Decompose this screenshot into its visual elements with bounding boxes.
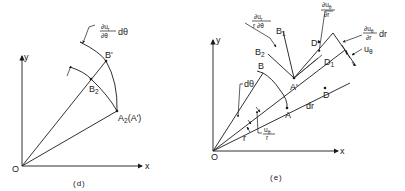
label-D: D — [323, 90, 330, 100]
label-B: B — [258, 61, 264, 71]
svg-text:r ∂θ: r ∂θ — [253, 22, 264, 29]
x-label: x — [145, 161, 150, 171]
svg-text:∂uθ: ∂uθ — [322, 1, 332, 10]
label-A2: A2(A') — [118, 113, 141, 124]
ray-OB-prime — [22, 61, 106, 166]
point-D — [324, 87, 327, 90]
inner-arc-arrow-icon — [67, 66, 71, 76]
label-dur-over-r-dtheta: ∂ur r ∂θ — [252, 13, 271, 29]
panel-e: y x O A B D A' B1 B2 D1 D' dθ dr r uθ r … — [211, 1, 387, 182]
arc-BA — [263, 73, 287, 108]
ray-OA2 — [22, 111, 117, 166]
ray-A-prime-B2 — [268, 54, 294, 78]
svg-text:∂ur: ∂ur — [254, 13, 263, 22]
leader-u-theta — [352, 49, 362, 55]
ray-A-prime-B1 — [283, 31, 294, 78]
svg-text:∂uθ: ∂uθ — [364, 25, 374, 34]
svg-text:∂θ: ∂θ — [101, 32, 108, 39]
fan-line-2 — [294, 58, 318, 78]
point-A2 — [116, 110, 119, 113]
y-label-e: y — [216, 35, 221, 45]
point-B2 — [90, 78, 93, 81]
label-B2-e: B2 — [255, 47, 265, 58]
origin-label: O — [12, 164, 19, 174]
B-tick — [257, 71, 263, 73]
outer-arc-tick — [80, 42, 83, 43]
leader-dtheta — [238, 84, 243, 117]
point-A-prime — [293, 77, 296, 80]
svg-text:r: r — [266, 134, 269, 141]
x-label-e: x — [340, 146, 345, 156]
annotation-leader-d — [83, 25, 95, 43]
label-A-prime: A' — [290, 82, 298, 92]
label-B1: B1 — [276, 26, 286, 37]
label-u-theta: uθ — [364, 44, 373, 55]
caption-d: (d) — [73, 179, 86, 188]
label-duth-over-dr: ∂uθ ∂r — [321, 1, 335, 18]
angle-arrow-3 — [247, 127, 250, 132]
svg-text:∂r: ∂r — [366, 34, 372, 41]
svg-text:∂r: ∂r — [324, 11, 330, 18]
label-B-prime: B' — [105, 50, 113, 60]
point-A — [286, 107, 289, 110]
origin-label-e: O — [211, 152, 218, 162]
polar-strain-diagram: y x O B' B2 A2(A') ∂ur ∂θ dθ (d) — [0, 0, 405, 191]
label-A: A — [285, 110, 291, 120]
label-duth-over-dr-dr: ∂uθ ∂r dr — [363, 25, 387, 41]
panel-d: y x O B' B2 A2(A') ∂ur ∂θ dθ (d) — [12, 23, 150, 188]
label-r: r — [243, 133, 246, 143]
y-label: y — [24, 52, 29, 62]
svg-text:dθ: dθ — [118, 27, 128, 37]
svg-text:∂ur: ∂ur — [101, 23, 110, 32]
label-dtheta: dθ — [244, 79, 254, 89]
label-dr: dr — [306, 101, 314, 111]
point-B-prime — [105, 60, 108, 63]
angle-arrow-2 — [256, 107, 260, 112]
label-D1: D1 — [324, 57, 335, 68]
dim-arrow-2 — [346, 52, 350, 58]
label-u-theta-over-r: uθ r — [263, 126, 275, 141]
leader-duth-dr — [343, 35, 362, 42]
label-D-prime: D' — [311, 38, 319, 48]
caption-e: (e) — [270, 173, 283, 182]
svg-text:dr: dr — [379, 29, 387, 39]
annotation-dur-dtheta-dtheta: ∂ur ∂θ dθ — [100, 23, 128, 39]
